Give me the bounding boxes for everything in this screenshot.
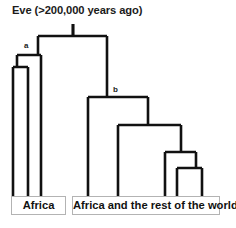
clade-b-node2-bar	[118, 125, 181, 196]
clade-b-node3-bar	[165, 152, 196, 196]
clade-b-node4-bar	[177, 168, 202, 196]
cladogram-figure: Eve (>200,000 years ago) a b Africa Afri…	[0, 0, 236, 228]
node-label-b: b	[113, 85, 118, 94]
root-branch	[38, 36, 107, 97]
tree-graphic	[0, 0, 236, 228]
clade-a-subnode-bar	[13, 67, 28, 196]
group-label-africa: Africa	[11, 196, 66, 215]
group-label-africa-and-rest-of-world: Africa and the rest of the world	[72, 196, 220, 215]
node-label-a: a	[24, 41, 28, 50]
